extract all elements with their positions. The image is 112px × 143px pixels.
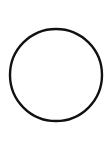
circle-outline <box>10 29 102 121</box>
diagram-canvas <box>0 0 112 143</box>
